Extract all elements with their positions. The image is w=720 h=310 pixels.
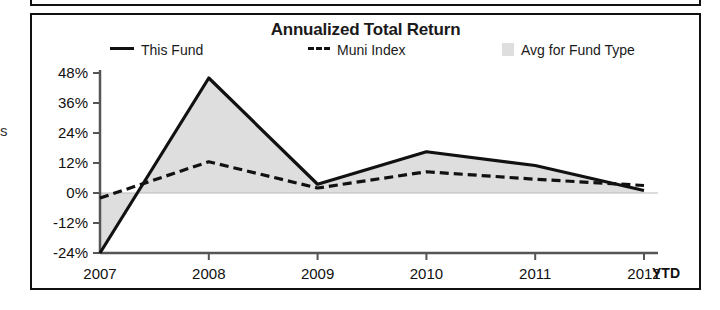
x-axis-ytd-note: YTD [652, 266, 680, 281]
panel-above-bottom-border [30, 0, 701, 6]
x-axis-tick-label: 2011 [495, 266, 575, 281]
x-axis-tick-label: 2009 [278, 266, 358, 281]
x-axis-tick-label: 2008 [169, 266, 249, 281]
y-axis-tick-label: 36% [30, 95, 88, 110]
plot-area: 48%36%24%12%0%-12%-24%200720082009201020… [32, 15, 703, 292]
margin-stray-glyph: s [0, 122, 8, 139]
y-axis-tick-label: 0% [30, 185, 88, 200]
y-axis-tick-label: -12% [30, 215, 88, 230]
x-axis-tick-label: 2010 [386, 266, 466, 281]
x-axis-tick-label: 2007 [60, 266, 140, 281]
y-axis-tick-label: 24% [30, 125, 88, 140]
plot-svg [32, 15, 703, 292]
y-axis-tick-label: -24% [30, 245, 88, 260]
annualized-total-return-chart: Annualized Total Return This Fund Muni I… [30, 13, 701, 290]
y-axis-tick-label: 48% [30, 65, 88, 80]
y-axis-tick-label: 12% [30, 155, 88, 170]
